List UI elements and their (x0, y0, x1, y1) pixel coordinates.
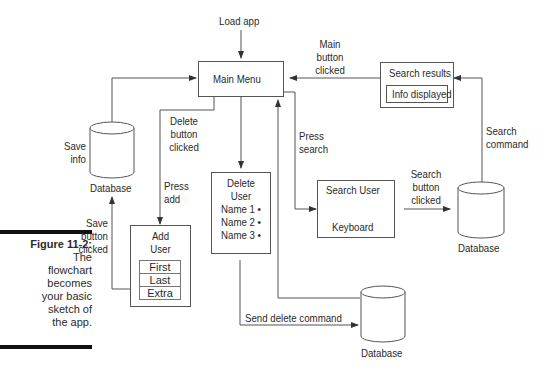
database-delete-label: Database (361, 347, 402, 360)
database-icon-save (90, 122, 134, 178)
database-icon-delete (361, 286, 405, 342)
delete-user-title: Delete User (215, 177, 266, 203)
main-menu-label: Main Menu (213, 73, 261, 86)
edge-label-save-info: Save info (54, 140, 86, 166)
caption-line: sketch of (0, 303, 92, 316)
last-name-field[interactable]: Last (139, 273, 181, 287)
delete-user-item[interactable]: Name 3 • (215, 229, 266, 242)
main-menu-node: Main Menu (198, 61, 284, 97)
search-results-label: Search results (389, 67, 451, 80)
edge-label-press-add: Press add (164, 180, 189, 206)
caption-bar-bottom (0, 345, 92, 349)
caption-line: your basic (0, 290, 92, 303)
add-user-node: Add User First Last Extra (130, 225, 191, 307)
caption-line: becomes (0, 277, 92, 290)
keyboard-label: Keyboard (332, 221, 373, 234)
info-displayed-box: Info displayed (386, 85, 448, 103)
caption-line: flowchart (0, 264, 92, 277)
search-user-node: Search User Keyboard (317, 180, 395, 238)
database-save-label: Database (90, 182, 131, 195)
edge-search-command (454, 78, 482, 182)
search-results-node: Search results Info displayed (380, 62, 454, 108)
delete-user-list: Name 1 • Name 2 • Name 3 • (215, 203, 266, 242)
edge-label-send-delete-command: Send delete command (245, 312, 342, 325)
edge-save-button-clicked (112, 197, 130, 289)
first-name-field[interactable]: First (139, 260, 181, 274)
delete-user-item[interactable]: Name 1 • (215, 203, 266, 216)
edge-label-save-button-clicked: Save button clicked (71, 217, 108, 256)
database-search-label: Database (458, 242, 499, 255)
info-displayed-label: Info displayed (392, 88, 452, 101)
edge-label-press-search: Press search (299, 130, 328, 156)
edge-label-search-command: Search command (486, 125, 529, 151)
search-user-label: Search User (326, 184, 380, 197)
edge-label-search-button-clicked: Search button clicked (406, 168, 446, 207)
add-user-title: Add User (135, 230, 187, 256)
caption-line: the app. (0, 316, 92, 329)
edge-label-delete-button-clicked: Delete button clicked (165, 115, 204, 154)
database-icon-search (458, 182, 504, 238)
load-app-label: Load app (219, 15, 259, 28)
delete-user-node: Delete User Name 1 • Name 2 • Name 3 • (211, 172, 271, 254)
edge-label-main-button-clicked: Main button clicked (305, 38, 354, 77)
delete-user-item[interactable]: Name 2 • (215, 216, 266, 229)
extra-field[interactable]: Extra (139, 286, 181, 300)
